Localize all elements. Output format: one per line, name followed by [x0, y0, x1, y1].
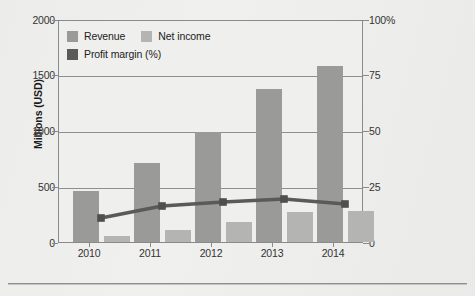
x-axis-tick-2014: 2014 — [305, 247, 361, 259]
y-axis-right-tickmark — [363, 75, 369, 76]
legend-row-2: Profit margin (%) — [67, 45, 297, 63]
y-axis-right-tick-100: 100% — [369, 14, 417, 26]
y-axis-right-tick-75: 75 — [369, 69, 417, 81]
y-axis-right-tickmark — [363, 131, 369, 132]
page-divider-rule-shadow — [8, 284, 467, 285]
y-axis-right-tickmark — [363, 20, 369, 21]
y-axis-right-tick-0: 0 — [369, 237, 417, 249]
y-axis-left-tick-500: 500 — [11, 181, 55, 193]
chart-figure: Millions (USD) 2000 1500 1000 500 0 100%… — [0, 0, 475, 262]
x-axis-tick-2011: 2011 — [122, 247, 178, 259]
y-axis-left-tick-2000: 2000 — [11, 14, 55, 26]
x-axis-tick-2012: 2012 — [183, 247, 239, 259]
profit-margin-marker-2013 — [280, 195, 288, 203]
legend-swatch-icon-profit-margin — [67, 49, 78, 60]
legend-row-1: Revenue Net income — [67, 27, 297, 45]
y-axis-right-tick-50: 50 — [369, 125, 417, 137]
legend-swatch-icon-net-income — [141, 31, 152, 42]
y-axis-left-tickmark — [52, 243, 58, 244]
page: Millions (USD) 2000 1500 1000 500 0 100%… — [0, 0, 475, 296]
legend-item-revenue: Revenue — [67, 30, 125, 42]
x-axis-tick-2010: 2010 — [61, 247, 117, 259]
legend-item-profit-margin: Profit margin (%) — [67, 48, 161, 60]
legend-item-net-income: Net income — [141, 30, 210, 42]
y-axis-right-tickmark — [363, 187, 369, 188]
y-axis-left-tick-0: 0 — [11, 237, 55, 249]
y-axis-left-tick-1500: 1500 — [11, 69, 55, 81]
plot-area: Revenue Net income Profit margin (%) — [58, 20, 363, 243]
chart-legend: Revenue Net income Profit margin (%) — [67, 27, 297, 63]
profit-margin-marker-2014 — [341, 200, 349, 208]
y-axis-right-tickmark — [363, 243, 369, 244]
profit-margin-marker-2011 — [158, 202, 166, 210]
legend-label-profit-margin: Profit margin (%) — [84, 48, 161, 60]
legend-label-net-income: Net income — [158, 30, 210, 42]
y-axis-left-tick-1000: 1000 — [11, 125, 55, 137]
profit-margin-marker-2012 — [219, 198, 227, 206]
legend-swatch-icon-revenue — [67, 31, 78, 42]
y-axis-right-tick-25: 25 — [369, 181, 417, 193]
legend-label-revenue: Revenue — [84, 30, 125, 42]
profit-margin-marker-2010 — [97, 214, 105, 222]
x-axis-tick-2013: 2013 — [244, 247, 300, 259]
